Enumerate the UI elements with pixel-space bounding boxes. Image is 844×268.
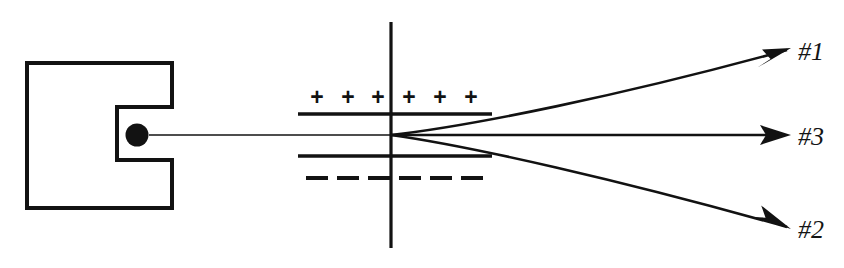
minus-icon xyxy=(337,176,359,180)
minus-icon xyxy=(306,176,328,180)
trajectory-2-arrowhead xyxy=(752,205,792,229)
trajectory-2-label: #2 xyxy=(798,215,824,244)
particle-emitter-dot xyxy=(126,124,149,147)
trajectory-3-label: #3 xyxy=(798,122,824,151)
plus-icon: + xyxy=(371,84,384,110)
trajectory-2 xyxy=(391,135,792,229)
minus-icon xyxy=(368,176,390,180)
trajectory-1-label: #1 xyxy=(798,37,824,66)
negative-charge-row xyxy=(306,176,483,180)
trajectory-3 xyxy=(391,125,791,145)
plus-icon: + xyxy=(402,84,415,110)
trajectory-1-path xyxy=(391,50,787,135)
trajectory-2-path xyxy=(391,135,787,227)
minus-icon xyxy=(399,176,421,180)
plus-icon: + xyxy=(341,84,354,110)
minus-icon xyxy=(430,176,452,180)
plus-icon: + xyxy=(464,84,477,110)
plus-icon: + xyxy=(433,84,446,110)
plus-icon: + xyxy=(310,84,323,110)
trajectory-1 xyxy=(391,48,792,135)
physics-figure: + + + + + + xyxy=(0,0,844,268)
positive-charge-row: + + + + + + xyxy=(310,84,477,110)
figure-canvas: + + + + + + xyxy=(0,0,844,268)
minus-icon xyxy=(461,176,483,180)
